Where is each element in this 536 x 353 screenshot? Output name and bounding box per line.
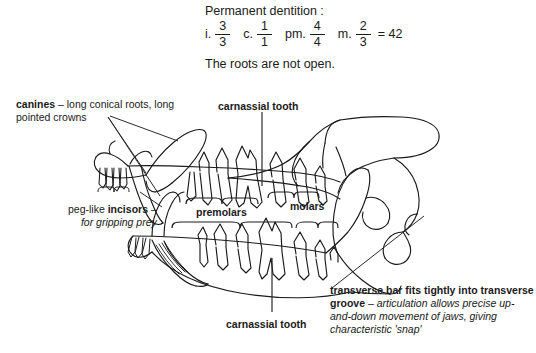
snout: [94, 141, 146, 178]
lower-molars: [294, 232, 338, 280]
formula-term-molars: m. 2 3: [338, 20, 371, 48]
label-carnassial-lower: carnassial tooth: [226, 318, 307, 331]
formula-label-i: i.: [205, 27, 211, 41]
label-incisors: peg-like incisors – for gripping prey: [68, 203, 157, 229]
formula-label-c: c.: [243, 27, 253, 41]
label-incisors-prefix: peg-like: [68, 203, 108, 215]
formula-term-premolars: pm. 4 4: [285, 20, 325, 48]
label-incisors-line2: for gripping prey: [68, 216, 157, 229]
bracket-molars-lower: [296, 222, 338, 228]
formula-label-pm: pm.: [285, 27, 306, 41]
formula-total: = 42: [378, 27, 403, 41]
roots-note: The roots are not open.: [205, 57, 335, 72]
formula-fraction-i: 3 3: [215, 20, 230, 48]
formula-den-m: 3: [360, 35, 367, 49]
formula-num-c: 1: [261, 20, 268, 34]
formula-term-canines: c. 1 1: [243, 20, 272, 48]
formula-den-i: 3: [219, 35, 226, 49]
jaw-articulation: [362, 197, 417, 264]
mandible-outline: [128, 168, 401, 298]
formula-num-i: 3: [219, 20, 226, 34]
label-canines: canines – long conical roots, long point…: [16, 98, 206, 124]
upper-molars: [270, 152, 327, 207]
label-canines-term: canines: [16, 98, 55, 110]
label-transverse-articulation: transverse bar fits tightly into transve…: [330, 284, 535, 337]
formula-den-pm: 4: [314, 35, 321, 49]
formula-term-incisors: i. 3 3: [205, 20, 230, 48]
dental-formula: i. 3 3 c. 1 1 pm. 4 4 m.: [205, 20, 402, 48]
formula-fraction-m: 2 3: [356, 20, 371, 48]
label-transverse-dash: –: [365, 297, 377, 309]
formula-den-c: 1: [261, 35, 268, 49]
formula-fraction-c: 1 1: [257, 20, 272, 48]
label-incisors-line1: peg-like incisors –: [68, 203, 157, 216]
upper-canine-root-outline: [146, 130, 206, 193]
page-title: Permanent dentition :: [205, 4, 324, 19]
label-carnassial-upper: carnassial tooth: [218, 100, 299, 113]
label-molars: molars: [290, 200, 324, 213]
label-incisors-term: incisors: [108, 203, 148, 215]
label-incisors-dash: –: [148, 203, 157, 215]
formula-num-pm: 4: [314, 20, 321, 34]
formula-fraction-pm: 4 4: [310, 20, 325, 48]
formula-num-m: 2: [360, 20, 367, 34]
formula-label-m: m.: [338, 27, 352, 41]
label-premolars: premolars: [196, 206, 247, 219]
figure-canvas: Permanent dentition : i. 3 3 c. 1 1 pm. …: [0, 0, 536, 353]
